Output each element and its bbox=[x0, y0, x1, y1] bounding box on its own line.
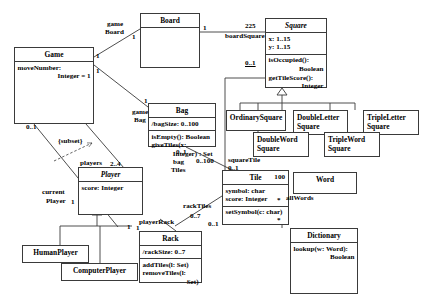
label-player-rack-role: playerRack bbox=[139, 218, 174, 226]
label-rack-tiles-mult-tile: 0..1 bbox=[208, 220, 219, 228]
operation: getTileScore(): bbox=[269, 74, 324, 83]
class-name-human-player: HumanPlayer bbox=[23, 246, 88, 259]
class-name-ordinary-square: OrdinarySquare bbox=[227, 111, 285, 124]
label-rack-tiles-mult-rack: 0..7 bbox=[190, 212, 201, 220]
class-attributes-game: moveNumber: Integer = 1 bbox=[15, 62, 93, 83]
label-square-tile-mult-tile: 0..1 bbox=[228, 164, 239, 172]
uml-class-diagram: Game moveNumber: Integer = 1 Board Squar… bbox=[0, 0, 443, 302]
label-board-square-mult-board: 1 bbox=[203, 24, 207, 32]
class-attributes-player: score: Integer bbox=[79, 182, 142, 194]
label-game-board-mult-game: 1 bbox=[96, 52, 100, 60]
label-game-current-player-mult-game: 0..1 bbox=[26, 123, 37, 131]
class-name-computer-player: ComputerPlayer bbox=[62, 264, 137, 277]
class-box-dictionary[interactable]: Dictionary lookup(w: Word): Boolean bbox=[290, 228, 358, 294]
class-box-player[interactable]: Player score: Integer bbox=[78, 167, 143, 215]
label-game-board-role-line2: Board bbox=[105, 28, 124, 36]
label-game-players-role: players bbox=[80, 159, 102, 167]
class-box-game[interactable]: Game moveNumber: Integer = 1 bbox=[14, 47, 94, 124]
label-bag-tiles-mult-bag: 0..1 bbox=[176, 148, 187, 156]
class-name-bag: Bag bbox=[149, 104, 215, 117]
class-name-tile-text: Tile bbox=[249, 173, 261, 182]
class-name-tile: Tile 100 bbox=[223, 171, 288, 184]
class-name-triple-word-square-line2: Square bbox=[325, 144, 379, 155]
label-game-players-mult: 2..4 bbox=[110, 160, 121, 168]
class-attributes-bag: /bagSize: 0..100 bbox=[149, 118, 215, 130]
attribute: score: Integer bbox=[82, 184, 140, 193]
label-dictionary-word-mult-word: * bbox=[277, 196, 281, 204]
label-board-square-mult-square: 225 bbox=[245, 22, 256, 30]
label-board-square-role: boardSquare bbox=[225, 32, 265, 40]
class-operations-dictionary: lookup(w: Word): Boolean bbox=[291, 243, 357, 264]
label-rack-tiles-role: rackTiles bbox=[183, 202, 211, 210]
class-box-human-player[interactable]: HumanPlayer bbox=[22, 245, 89, 263]
class-operations-rack: addTiles(l: Set) removeTiles(l: Set) bbox=[140, 259, 201, 288]
class-name-board: Board bbox=[141, 14, 199, 27]
label-game-bag-role-line1: game bbox=[132, 108, 148, 116]
attribute: Integer = 1 bbox=[18, 72, 91, 81]
operation: Integer bbox=[269, 82, 324, 91]
class-name-double-word-square-line2: Square bbox=[254, 144, 308, 155]
class-attributes-square: x: 1..15 y: 1..15 bbox=[266, 33, 326, 54]
class-operations-square: isOccupied(): Boolean getTileScore(): In… bbox=[266, 55, 326, 93]
class-name-double-letter-square-line1: DoubleLetter bbox=[294, 111, 347, 122]
operation: addTiles(l: Set) bbox=[143, 261, 199, 270]
label-player-rack-mult-player: 1 bbox=[127, 223, 131, 231]
class-box-computer-player[interactable]: ComputerPlayer bbox=[61, 263, 138, 281]
label-bag-tiles-mult-tile: 0..100 bbox=[196, 157, 214, 165]
label-game-bag-role-line2: Bag bbox=[134, 116, 146, 124]
class-box-double-word-square[interactable]: DoubleWord Square bbox=[253, 132, 309, 157]
label-bag-tiles-role-line2: Tiles bbox=[171, 166, 185, 174]
operation: isEmpty(): Boolean bbox=[152, 133, 213, 142]
attribute: symbol: char bbox=[226, 187, 286, 196]
class-attributes-board bbox=[141, 28, 199, 38]
class-box-square[interactable]: Square x: 1..15 y: 1..15 isOccupied(): B… bbox=[265, 18, 327, 88]
attribute: /bagSize: 0..100 bbox=[152, 120, 213, 129]
operation: Boolean bbox=[294, 253, 355, 262]
operation: lookup(w: Word): bbox=[294, 245, 355, 254]
label-dictionary-word-role: allWords bbox=[286, 194, 314, 202]
class-box-word[interactable]: Word bbox=[293, 172, 357, 194]
label-dictionary-word-mult-dict: * bbox=[277, 216, 281, 224]
label-square-tile-role: squareTile bbox=[228, 156, 260, 164]
label-game-bag-mult-game: 1 bbox=[96, 67, 100, 75]
label-square-tile-mult-square: 0..1 bbox=[245, 59, 256, 67]
label-bag-tiles-role-line1: bag bbox=[173, 158, 184, 166]
operation: isOccupied(): bbox=[269, 56, 324, 65]
label-game-current-player-role-line2: Player bbox=[46, 197, 66, 205]
attribute: y: 1..15 bbox=[269, 43, 324, 52]
attribute: /rackSize: 0..7 bbox=[143, 248, 199, 257]
class-name-rack: Rack bbox=[140, 232, 201, 245]
class-attributes-rack: /rackSize: 0..7 bbox=[140, 246, 201, 258]
class-name-square: Square bbox=[266, 19, 326, 32]
label-game-board-mult-board: 1 bbox=[132, 33, 136, 41]
class-name-dictionary: Dictionary bbox=[291, 229, 357, 242]
class-box-board[interactable]: Board bbox=[140, 13, 200, 68]
class-box-ordinary-square[interactable]: OrdinarySquare bbox=[226, 110, 286, 131]
class-name-triple-word-square-line1: TripleWord bbox=[325, 133, 379, 144]
operation: Boolean bbox=[269, 65, 324, 74]
operation: removeTiles(l: bbox=[143, 269, 199, 278]
class-box-bag[interactable]: Bag /bagSize: 0..100 isEmpty(): Boolean … bbox=[148, 103, 216, 147]
class-box-triple-word-square[interactable]: TripleWord Square bbox=[324, 132, 380, 157]
attribute: x: 1..15 bbox=[269, 35, 324, 44]
label-player-rack-mult-rack: 1 bbox=[136, 224, 140, 232]
attribute: moveNumber: bbox=[18, 64, 91, 73]
class-name-game: Game bbox=[15, 48, 93, 61]
class-box-rack[interactable]: Rack /rackSize: 0..7 addTiles(l: Set) re… bbox=[139, 231, 202, 283]
label-game-board-role-line1: game bbox=[107, 20, 123, 28]
label-game-bag-mult-bag: 1 bbox=[144, 97, 148, 105]
class-name-word: Word bbox=[294, 173, 356, 186]
class-name-player: Player bbox=[79, 168, 142, 181]
operation: Set) bbox=[143, 278, 199, 287]
label-game-current-player-mult-player: 1 bbox=[71, 198, 75, 206]
tile-corner-multiplicity: 100 bbox=[274, 173, 285, 182]
label-game-current-player-role-line1: current bbox=[42, 188, 65, 196]
class-name-double-word-square-line1: DoubleWord bbox=[254, 133, 308, 144]
label-subset-constraint: {subset} bbox=[58, 137, 83, 145]
class-name-triple-letter-square-line1: TripleLetter bbox=[364, 111, 418, 122]
